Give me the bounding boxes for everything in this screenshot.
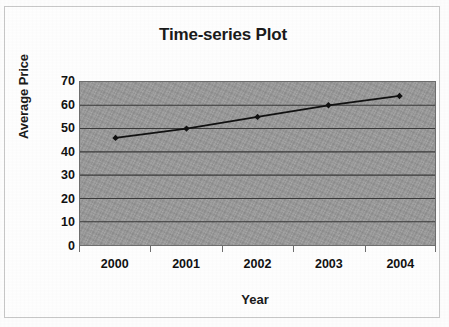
y-tick-label: 50: [43, 122, 75, 134]
data-point-marker: [325, 102, 331, 108]
x-tick-label: 2000: [79, 257, 150, 271]
x-tick-mark: [293, 246, 294, 252]
x-axis-title: Year: [75, 292, 435, 307]
y-axis-tick-labels: 706050403020100: [43, 79, 75, 245]
y-tick-label: 70: [43, 75, 75, 87]
plot-area: [79, 81, 436, 246]
chart-title: Time-series Plot: [5, 25, 441, 45]
x-axis-tick-labels: 20002001200220032004: [79, 257, 436, 275]
x-axis-tick-marks: [79, 246, 436, 252]
y-tick-label: 10: [43, 216, 75, 228]
x-tick-mark: [365, 246, 366, 252]
y-axis-title: Average Price: [16, 7, 31, 187]
y-tick-label: 60: [43, 99, 75, 111]
x-tick-label: 2003: [293, 257, 364, 271]
x-tick-mark: [222, 246, 223, 252]
data-point-marker: [254, 114, 260, 120]
scanned-page: Time-series Plot Average Price 706050403…: [0, 0, 449, 327]
y-tick-label: 0: [43, 240, 75, 252]
y-tick-label: 20: [43, 193, 75, 205]
data-point-marker: [183, 125, 189, 131]
series-plot: [80, 82, 435, 245]
y-tick-label: 30: [43, 169, 75, 181]
chart-frame: Time-series Plot Average Price 706050403…: [4, 6, 440, 318]
data-point-marker: [112, 135, 118, 141]
x-tick-label: 2004: [365, 257, 436, 271]
x-tick-mark: [435, 246, 436, 252]
x-tick-label: 2002: [222, 257, 293, 271]
x-tick-label: 2001: [150, 257, 221, 271]
y-tick-label: 40: [43, 146, 75, 158]
x-tick-mark: [150, 246, 151, 252]
x-tick-mark: [79, 246, 80, 252]
data-point-marker: [396, 93, 402, 99]
